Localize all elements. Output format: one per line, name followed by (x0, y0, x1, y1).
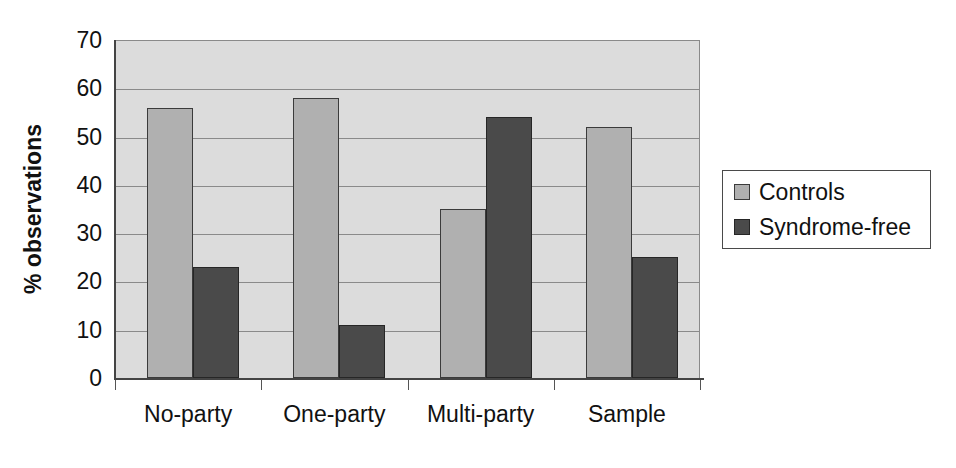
legend-label: Syndrome-free (759, 216, 911, 239)
bar-sample-controls (586, 127, 632, 378)
bar-no-party-syndrome-free (193, 267, 239, 378)
bar-sample-syndrome-free (632, 257, 678, 378)
legend-swatch-icon (734, 219, 750, 235)
x-axis-tick-labels: No-partyOne-partyMulti-partySample (115, 398, 700, 432)
bar-one-party-controls (293, 98, 339, 378)
bar-chart-figure: % observations 010203040506070 No-partyO… (0, 0, 956, 468)
y-axis-tick-label: 70 (44, 26, 102, 54)
x-axis-category-ticks (115, 380, 700, 390)
legend-item-syndrome-free: Syndrome-free (734, 211, 911, 243)
y-axis-tick-label: 40 (44, 171, 102, 199)
x-axis-tick-label: One-party (261, 398, 407, 430)
x-axis-category-tick (408, 380, 409, 390)
bar-multi-party-syndrome-free (486, 117, 532, 378)
x-axis-tick-label: Multi-party (408, 398, 554, 430)
y-axis-tick-label: 0 (44, 364, 102, 392)
y-axis-tick-label: 10 (44, 316, 102, 344)
bar-multi-party-controls (440, 209, 486, 378)
chart-legend: ControlsSyndrome-free (722, 170, 931, 249)
x-axis-category-tick (554, 380, 555, 390)
y-axis-tick-label: 20 (44, 267, 102, 295)
x-axis-tick-label: No-party (115, 398, 261, 430)
bar-one-party-syndrome-free (339, 325, 385, 378)
legend-item-controls: Controls (734, 176, 845, 208)
legend-label: Controls (759, 181, 845, 204)
x-axis-category-tick (700, 380, 701, 390)
y-axis-tick-labels: 010203040506070 (44, 40, 102, 378)
y-axis-tick-label: 30 (44, 219, 102, 247)
x-axis-category-tick (115, 380, 116, 390)
y-axis-tick-label: 60 (44, 74, 102, 102)
x-axis-tick-label: Sample (554, 398, 700, 430)
x-axis-category-tick (261, 380, 262, 390)
bar-no-party-controls (147, 108, 193, 378)
legend-swatch-icon (734, 184, 750, 200)
bars-layer (115, 40, 700, 378)
y-axis-tick-label: 50 (44, 123, 102, 151)
